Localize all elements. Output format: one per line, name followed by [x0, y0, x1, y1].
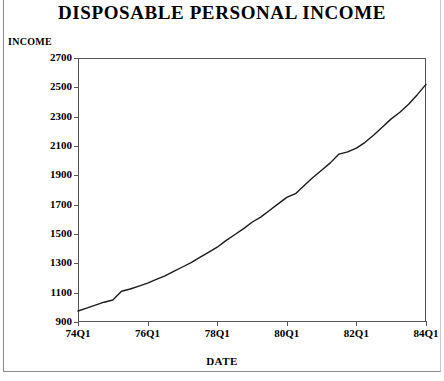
x-tick-label: 76Q1	[118, 328, 178, 339]
x-tick-label: 84Q1	[396, 328, 444, 339]
y-tick-mark	[74, 205, 79, 206]
x-tick-label: 78Q1	[187, 328, 247, 339]
y-tick-mark	[74, 175, 79, 176]
y-tick-mark	[74, 58, 79, 59]
y-tick-label: 2300	[28, 111, 72, 122]
x-tick-mark	[217, 321, 218, 326]
x-tick-mark	[78, 321, 79, 326]
y-tick-mark	[74, 234, 79, 235]
y-tick-mark	[74, 263, 79, 264]
x-tick-label: 74Q1	[48, 328, 108, 339]
y-tick-label: 1500	[28, 228, 72, 239]
y-axis-label: INCOME	[8, 36, 52, 47]
chart-figure: DISPOSABLE PERSONAL INCOME INCOME 270025…	[0, 0, 444, 381]
line-series-disposable-personal-income	[78, 84, 426, 311]
y-tick-label: 1900	[28, 169, 72, 180]
y-tick-label: 900	[28, 316, 72, 327]
y-tick-mark	[74, 117, 79, 118]
x-tick-mark	[148, 321, 149, 326]
x-axis-label: DATE	[0, 355, 444, 367]
y-tick-label: 2100	[28, 140, 72, 151]
x-tick-mark	[356, 321, 357, 326]
x-tick-label: 80Q1	[257, 328, 317, 339]
y-tick-label: 2500	[28, 81, 72, 92]
y-tick-label: 1700	[28, 199, 72, 210]
page-title: DISPOSABLE PERSONAL INCOME	[0, 2, 444, 24]
y-tick-label: 1300	[28, 257, 72, 268]
y-tick-label: 2700	[28, 52, 72, 63]
x-tick-mark	[287, 321, 288, 326]
y-tick-mark	[74, 87, 79, 88]
y-tick-label: 1100	[28, 287, 72, 298]
x-tick-mark	[426, 321, 427, 326]
data-line-layer	[78, 58, 426, 322]
y-tick-mark	[74, 146, 79, 147]
x-tick-label: 82Q1	[326, 328, 386, 339]
y-tick-mark	[74, 293, 79, 294]
